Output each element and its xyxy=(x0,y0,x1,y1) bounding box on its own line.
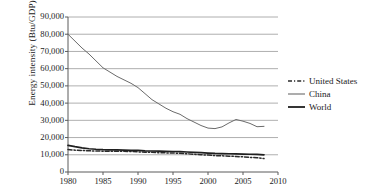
chart-figure: Energy intensity (Btu/GDP) 010,00020,000… xyxy=(0,0,381,196)
legend-label-united-states: United States xyxy=(309,76,357,86)
legend-swatch-dashed-line xyxy=(288,76,305,86)
series-line-china xyxy=(68,34,264,128)
legend-label-world: World xyxy=(309,102,331,112)
data-series-layer xyxy=(68,34,264,158)
legend-swatch-thin-line xyxy=(288,89,305,99)
legend-item-united-states[interactable]: United States xyxy=(288,75,380,87)
legend-item-world[interactable]: World xyxy=(288,101,380,113)
legend-swatch-thick-line xyxy=(288,102,305,112)
series-line-world xyxy=(68,145,264,154)
legend-label-china: China xyxy=(309,89,331,99)
legend-item-china[interactable]: China xyxy=(288,88,380,100)
chart-legend: United States China World xyxy=(288,75,380,114)
